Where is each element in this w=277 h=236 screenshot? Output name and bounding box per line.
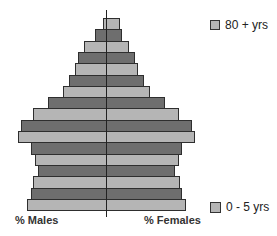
population-pyramid-chart: 80 + yrs 0 - 5 yrs % Males % Females bbox=[0, 0, 277, 236]
legend-label-bottom: 0 - 5 yrs bbox=[226, 200, 269, 214]
legend-swatch-icon bbox=[210, 202, 221, 213]
female-bar bbox=[106, 199, 186, 211]
male-bar bbox=[27, 199, 107, 211]
legend-label-top: 80 + yrs bbox=[225, 18, 268, 32]
males-axis-label: % Males bbox=[15, 214, 58, 226]
center-axis bbox=[106, 10, 107, 217]
females-axis-label: % Females bbox=[144, 214, 201, 226]
legend-swatch-icon bbox=[210, 20, 220, 30]
legend-item-top: 80 + yrs bbox=[210, 18, 268, 32]
legend-item-bottom: 0 - 5 yrs bbox=[210, 200, 269, 214]
